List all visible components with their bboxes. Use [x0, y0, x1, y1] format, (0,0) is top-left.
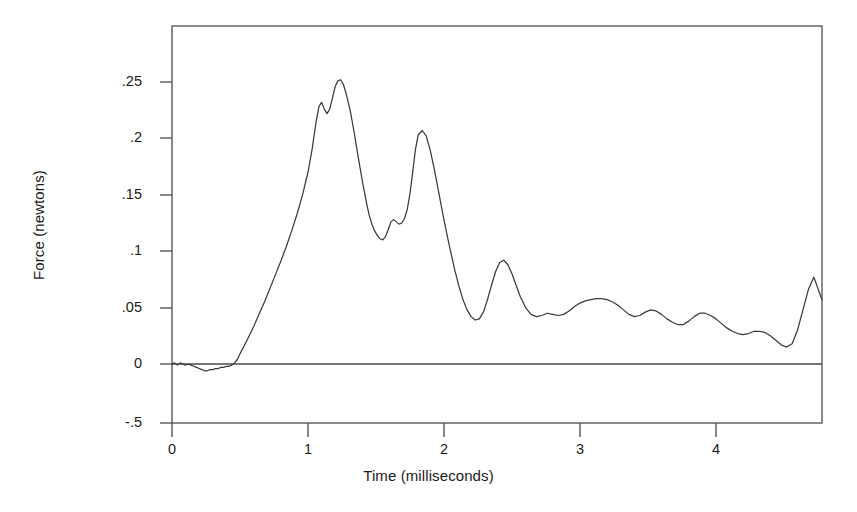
force-vs-time-chart: .25 .2 .15 .1 .05 0 -.5 0 1 2 3 4 Time (… — [0, 0, 857, 512]
x-tick-label-4: 4 — [696, 441, 736, 457]
x-tick-label-3: 3 — [560, 441, 600, 457]
force-trace-line — [172, 80, 822, 371]
x-tick-label-1: 1 — [288, 441, 328, 457]
y-axis-title: Force (newtons) — [30, 125, 47, 325]
y-axis-ticks — [160, 82, 172, 423]
y-tick-label-0.25: .25 — [82, 73, 142, 89]
y-tick-label-0: 0 — [82, 355, 142, 371]
y-tick-label-0.1: .1 — [82, 242, 142, 258]
x-tick-label-0: 0 — [152, 441, 192, 457]
y-tick-label-0.2: .2 — [82, 129, 142, 145]
y-tick-label-0.05: .05 — [82, 299, 142, 315]
y-tick-label-0.15: .15 — [82, 186, 142, 202]
x-axis-ticks — [172, 423, 716, 437]
x-tick-label-2: 2 — [424, 441, 464, 457]
y-tick-label-neg: -.5 — [82, 414, 142, 430]
x-axis-title: Time (milliseconds) — [0, 467, 857, 484]
